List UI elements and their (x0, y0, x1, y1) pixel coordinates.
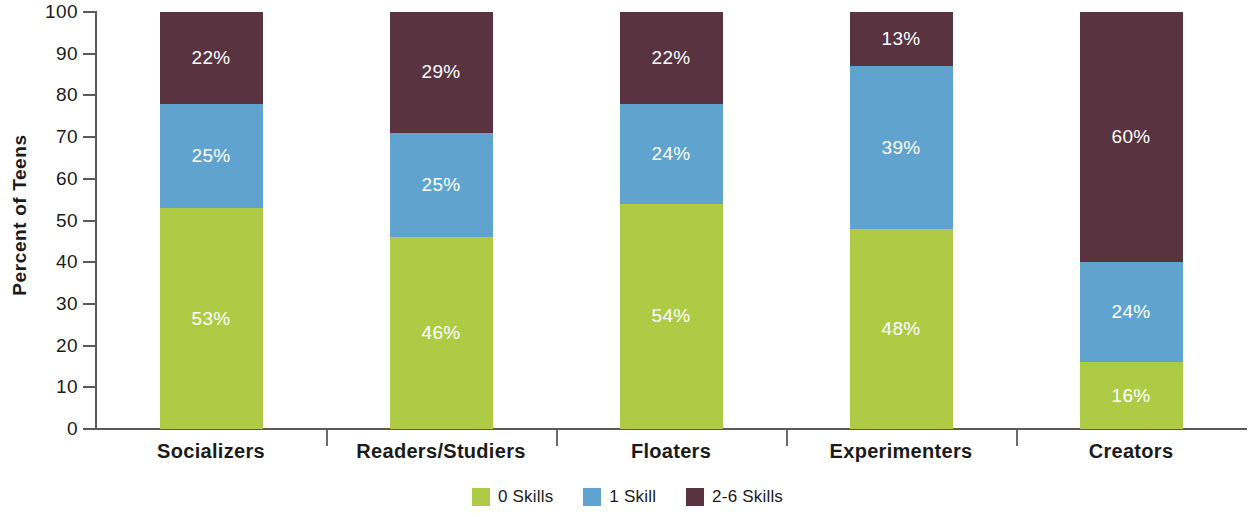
bar-segment-label: 22% (652, 47, 691, 69)
chart-legend: 0 Skills1 Skill2-6 Skills (0, 487, 1255, 507)
x-axis-label-experimenters: Experimenters (786, 440, 1016, 463)
bar-segment: 53% (160, 208, 263, 429)
bar-segment: 48% (850, 229, 953, 429)
bar-segment-label: 24% (1112, 301, 1151, 323)
legend-item[interactable]: 2-6 Skills (686, 487, 783, 507)
x-axis-label-floaters: Floaters (556, 440, 786, 463)
bar-segment-label: 48% (882, 318, 921, 340)
y-axis-title: Percent of Teens (2, 0, 38, 430)
y-axis-tick (83, 303, 97, 305)
plot-area: 53%25%22%46%25%29%54%24%22%48%39%13%16%2… (96, 12, 1246, 429)
y-axis-tick-label: 20 (36, 335, 78, 357)
legend-swatch-icon (472, 488, 490, 506)
bar-segment-label: 25% (422, 174, 461, 196)
bar-segment: 22% (160, 12, 263, 104)
legend-label: 2-6 Skills (712, 487, 783, 507)
y-axis-tick-label: 30 (36, 293, 78, 315)
stacked-bar-chart: Percent of Teens 0102030405060708090100 … (0, 0, 1255, 517)
legend-swatch-icon (583, 488, 601, 506)
bar-segment-label: 46% (422, 322, 461, 344)
y-axis-tick-label: 50 (36, 210, 78, 232)
y-axis-tick (83, 220, 97, 222)
bar-segment: 24% (1080, 262, 1183, 362)
y-axis-tick-label: 100 (36, 1, 78, 23)
legend-label: 1 Skill (609, 487, 656, 507)
y-axis-tick (83, 136, 97, 138)
bar-segment-label: 54% (652, 305, 691, 327)
legend-item[interactable]: 1 Skill (583, 487, 656, 507)
y-axis-tick (83, 386, 97, 388)
bar-segment: 22% (620, 12, 723, 104)
bar-group: 54%24%22% (620, 12, 723, 429)
bar-segment-label: 60% (1112, 126, 1151, 148)
bar-segment: 29% (390, 12, 493, 133)
legend-label: 0 Skills (498, 487, 553, 507)
bar-segment-label: 22% (192, 47, 231, 69)
bar-group: 48%39%13% (850, 12, 953, 429)
bar-group: 46%25%29% (390, 12, 493, 429)
bar-segment-label: 53% (192, 308, 231, 330)
y-axis-title-text: Percent of Teens (9, 134, 31, 295)
y-axis-tick (83, 178, 97, 180)
y-axis-tick (83, 11, 97, 13)
x-axis-label-socializers: Socializers (96, 440, 326, 463)
legend-item[interactable]: 0 Skills (472, 487, 553, 507)
x-axis-label-readers-studiers: Readers/Studiers (326, 440, 556, 463)
bar-segment-label: 29% (422, 61, 461, 83)
bar-segment: 24% (620, 104, 723, 204)
bar-segment-label: 25% (192, 145, 231, 167)
bar-segment: 25% (160, 104, 263, 208)
y-axis-tick (83, 345, 97, 347)
bar-segment: 16% (1080, 362, 1183, 429)
y-axis-tick (83, 261, 97, 263)
y-axis-tick-label: 40 (36, 251, 78, 273)
bar-segment-label: 24% (652, 143, 691, 165)
bar-segment: 39% (850, 66, 953, 229)
bar-segment: 54% (620, 204, 723, 429)
bar-segment: 60% (1080, 12, 1183, 262)
y-axis-tick-label: 0 (36, 418, 78, 440)
y-axis-tick-label: 60 (36, 168, 78, 190)
bar-segment: 25% (390, 133, 493, 237)
bar-segment-label: 39% (882, 137, 921, 159)
bar-group: 53%25%22% (160, 12, 263, 429)
bar-segment: 46% (390, 237, 493, 429)
legend-swatch-icon (686, 488, 704, 506)
y-axis-tick-label: 90 (36, 43, 78, 65)
bar-segment: 13% (850, 12, 953, 66)
y-axis-tick (83, 53, 97, 55)
bar-segment-label: 16% (1112, 385, 1151, 407)
y-axis-tick-label: 70 (36, 126, 78, 148)
y-axis-tick (83, 94, 97, 96)
bar-segment-label: 13% (882, 28, 921, 50)
x-axis-label-creators: Creators (1016, 440, 1246, 463)
bar-group: 16%24%60% (1080, 12, 1183, 429)
y-axis-tick-label: 10 (36, 376, 78, 398)
y-axis-tick-label: 80 (36, 84, 78, 106)
